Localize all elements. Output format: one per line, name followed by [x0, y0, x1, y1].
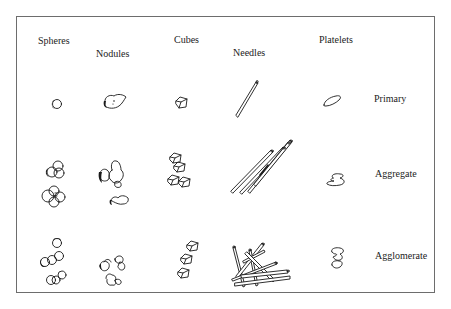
agglomerate-platelets-icon: [332, 248, 344, 268]
aggregate-spheres-icon: [42, 161, 65, 207]
primary-nodule-icon: [104, 94, 126, 108]
aggregate-nodules-icon: [99, 161, 129, 205]
primary-needle-icon: [236, 80, 259, 117]
agglomerate-nodules-icon: [100, 256, 125, 285]
primary-sphere-icon: [52, 100, 62, 109]
primary-cube-icon: [176, 97, 187, 108]
aggregate-platelets-icon: [327, 174, 344, 186]
agglomerate-spheres-icon: [40, 238, 66, 285]
aggregate-cubes-icon: [168, 153, 190, 187]
particle-illustrations: [0, 0, 451, 309]
agglomerate-cubes-icon: [178, 241, 198, 278]
agglomerate-needles-icon: [232, 243, 290, 287]
aggregate-needles-icon: [231, 140, 292, 194]
primary-platelet-icon: [324, 96, 340, 106]
